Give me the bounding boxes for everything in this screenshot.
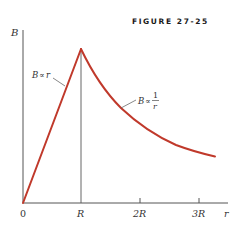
annotation-linear: B ∝ r (31, 70, 65, 86)
figure-title: FIGURE 27-25 (132, 17, 209, 26)
annotation-linear-prop: ∝ (39, 71, 44, 80)
annotation-linear-B: B (31, 70, 38, 80)
tick-label-0: 0 (20, 208, 26, 219)
tick-label-3R: 3R (192, 208, 205, 219)
annotation-linear-leader (53, 78, 65, 86)
annotation-inverse-leader (121, 100, 136, 108)
annotation-inverse: B ∝ 1 r (121, 91, 159, 111)
annotation-linear-r: r (46, 70, 51, 80)
tick-label-R: R (76, 208, 84, 219)
x-axis-label: r (224, 208, 230, 219)
chart: B 0 R 2R 3R r B ∝ r B ∝ 1 r (0, 0, 241, 232)
tick-label-2R: 2R (132, 208, 146, 219)
figure: FIGURE 27-25 B 0 R 2R 3R r B ∝ r (0, 0, 241, 232)
y-axis-label: B (10, 27, 18, 38)
annotation-inverse-prop: ∝ (145, 97, 150, 106)
annotation-inverse-B: B (137, 96, 144, 106)
annotation-inverse-denominator: r (153, 102, 158, 111)
annotation-inverse-numerator: 1 (153, 91, 158, 100)
